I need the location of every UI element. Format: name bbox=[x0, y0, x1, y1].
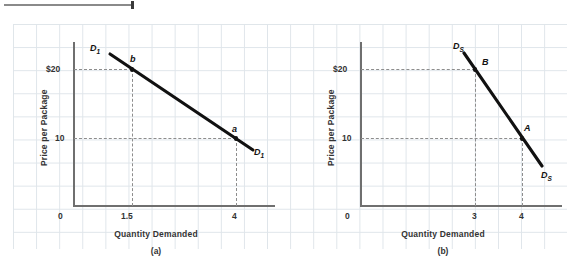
curve-label-ds-top-sub: S bbox=[460, 46, 464, 53]
y-tick-20-a: $20 bbox=[46, 64, 60, 74]
guide-price-20-b bbox=[361, 69, 475, 70]
guide-price-10-a bbox=[74, 138, 236, 139]
x-axis-title-a: Quantity Demanded bbox=[96, 229, 216, 239]
curve-label-d1-bottom: D1 bbox=[254, 147, 264, 159]
curve-label-d1-bottom-sub: 1 bbox=[261, 152, 265, 159]
data-point-label-A: A bbox=[524, 123, 531, 133]
guide-price-10-b bbox=[361, 138, 522, 139]
y-tick-10-b: 10 bbox=[342, 133, 351, 143]
data-point-label-B: B bbox=[482, 57, 489, 67]
y-axis-a bbox=[73, 42, 75, 206]
y-tick-10-a: 10 bbox=[55, 133, 64, 143]
data-point-b bbox=[130, 67, 135, 72]
curve-label-ds-top: DS bbox=[453, 41, 464, 53]
curve-label-ds-bottom-sub: S bbox=[548, 175, 552, 182]
y-axis-b bbox=[360, 42, 362, 206]
y-axis-title-b: Price per Package bbox=[326, 89, 336, 166]
x-tick-0-a: 0 bbox=[58, 211, 63, 221]
x-tick-1.5-a: 1.5 bbox=[121, 211, 133, 221]
data-point-a bbox=[234, 136, 239, 141]
curve-label-d1-top-sub: 1 bbox=[97, 48, 101, 55]
data-point-label-b: b bbox=[130, 54, 136, 64]
curve-label-ds-bottom: DS bbox=[541, 170, 552, 182]
data-point-A bbox=[520, 136, 525, 141]
x-tick-0-b: 0 bbox=[345, 211, 350, 221]
x-axis-a bbox=[73, 205, 275, 207]
x-tick-4-a: 4 bbox=[232, 211, 237, 221]
x-axis-title-b: Quantity Demanded bbox=[383, 229, 503, 239]
y-tick-20-b: $20 bbox=[333, 64, 347, 74]
chart-panel-b: $20 10 0 3 4 B A DS DS Price per Package… bbox=[290, 0, 580, 274]
data-point-B bbox=[473, 67, 478, 72]
guide-quantity-4-a bbox=[236, 138, 237, 206]
chart-panel-a: $20 10 0 1.5 4 b a D1 D1 Price per Packa… bbox=[0, 0, 290, 274]
x-tick-4-b: 4 bbox=[519, 211, 524, 221]
panel-caption-a: (a) bbox=[126, 246, 186, 256]
y-axis-title-a: Price per Package bbox=[39, 89, 49, 166]
x-axis-b bbox=[360, 205, 562, 207]
guide-price-20-a bbox=[74, 69, 132, 70]
x-tick-3-b: 3 bbox=[472, 211, 477, 221]
panel-caption-b: (b) bbox=[413, 246, 473, 256]
guide-quantity-4-b bbox=[522, 138, 523, 206]
data-point-label-a: a bbox=[232, 124, 237, 134]
curve-label-d1-top: D1 bbox=[90, 43, 100, 55]
